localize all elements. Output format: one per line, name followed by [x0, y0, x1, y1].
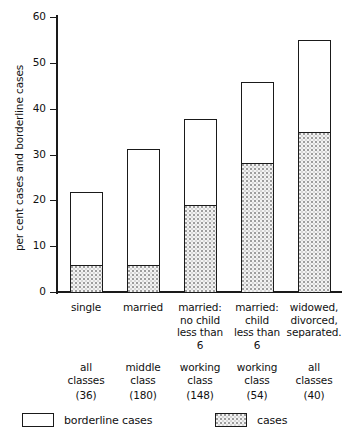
legend-swatch-cases-icon	[215, 413, 247, 427]
bar-single-borderline-segment	[70, 192, 103, 267]
y-tick-label-30: 30	[20, 148, 46, 160]
bar-married-child-cases-segment	[241, 163, 274, 293]
y-tick-10	[50, 246, 57, 247]
bar-single	[70, 192, 103, 292]
bar-married-no-child-cases-segment	[184, 205, 217, 293]
bar-married	[127, 149, 160, 292]
y-tick-50	[50, 63, 57, 64]
x-label-line: divorced,	[276, 314, 352, 327]
bar-married-borderline-segment	[127, 149, 160, 267]
bar-married-cases-segment	[127, 265, 160, 293]
y-tick-60	[50, 17, 57, 18]
y-tick-label-50: 50	[20, 56, 46, 68]
x-label-line: 6	[219, 339, 295, 352]
y-tick-label-20: 20	[20, 193, 46, 205]
y-tick-label-0: 0	[20, 285, 46, 297]
bar-married-no-child	[184, 119, 217, 292]
y-tick-label-60: 60	[20, 10, 46, 22]
bar-married-child-borderline-segment	[241, 82, 274, 165]
y-tick-label-40: 40	[20, 102, 46, 114]
x-label-group-widowed: widowed, divorced, separated.	[276, 301, 352, 339]
bar-widowed-cases-segment	[298, 132, 331, 293]
bar-married-no-child-borderline-segment	[184, 119, 217, 207]
x-label-line: widowed,	[276, 301, 352, 314]
x-label-line: separated.	[276, 326, 352, 339]
legend-label-borderline: borderline cases	[64, 414, 152, 427]
y-tick-40	[50, 109, 57, 110]
bar-widowed-divorced-separated	[298, 40, 331, 292]
x-count-widowed: (40)	[276, 389, 352, 402]
bar-widowed-borderline-segment	[298, 40, 331, 134]
y-tick-label-10: 10	[20, 239, 46, 251]
x-class-line: all	[276, 361, 352, 374]
x-class-line: classes	[276, 374, 352, 387]
y-tick-0	[50, 292, 57, 293]
bar-single-cases-segment	[70, 265, 103, 293]
legend-label-cases: cases	[257, 414, 287, 427]
bar-married-child	[241, 82, 274, 292]
y-tick-30	[50, 155, 57, 156]
chart-legend: borderline cases cases	[0, 408, 363, 437]
y-tick-20	[50, 200, 57, 201]
legend-item-borderline-cases: borderline cases	[22, 413, 152, 427]
x-class-widowed: all classes	[276, 361, 352, 386]
bar-chart-figure: per cent cases and borderline cases 60 5…	[0, 0, 363, 437]
legend-item-cases: cases	[215, 413, 287, 427]
legend-swatch-borderline-icon	[22, 413, 54, 427]
